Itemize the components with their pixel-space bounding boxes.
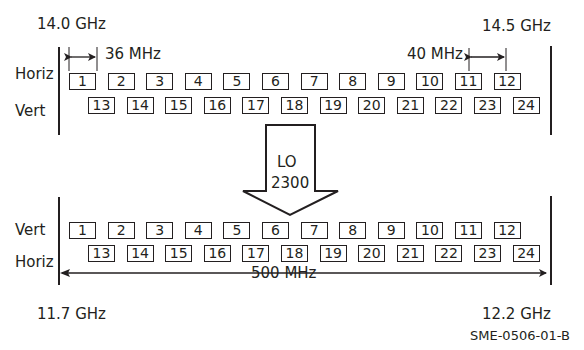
bandwidth-dimension-arrow: [69, 47, 97, 71]
lo-label: LO: [277, 155, 297, 170]
spacing-dimension-arrow: [469, 48, 506, 71]
lo-frequency: 2300: [271, 176, 309, 191]
band-span-arrow: [60, 269, 546, 277]
